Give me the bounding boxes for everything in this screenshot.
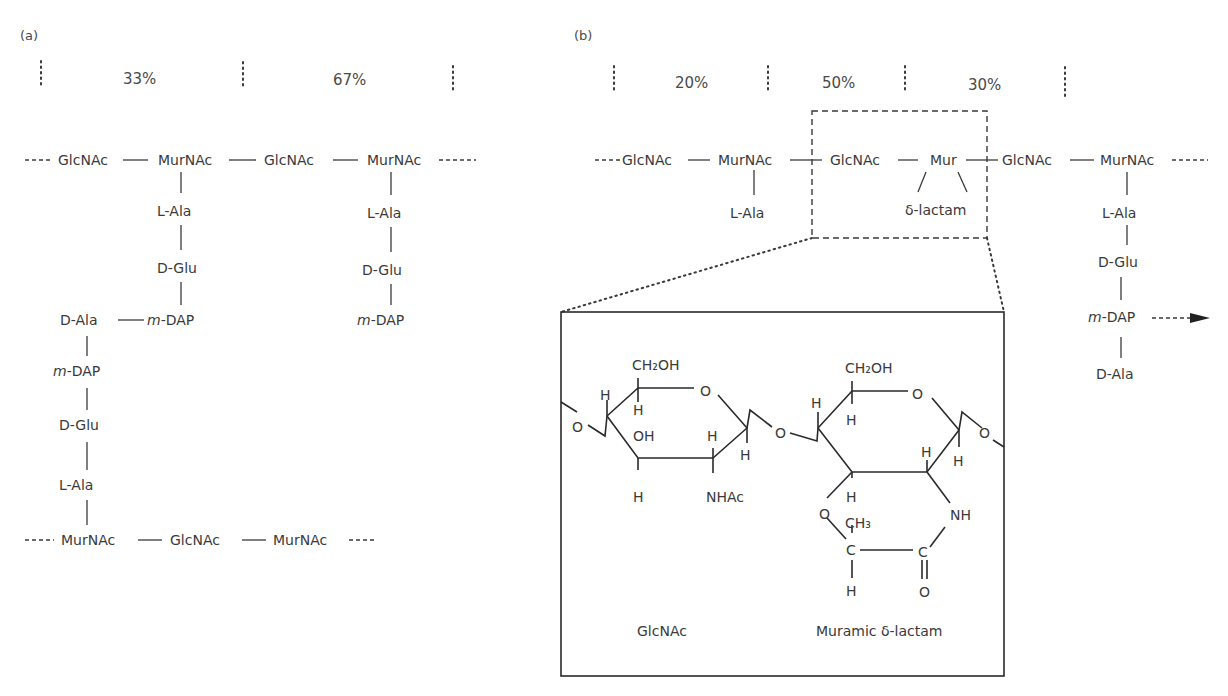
ring-oxygen-label: O [912, 386, 923, 402]
muramic-lactam-structure: CH₂OH O H H H H H O CH₃ C C NH H O Muram… [790, 360, 1004, 639]
d-ala-label: D-Ala [60, 312, 98, 328]
m-dap-label: m-DAP [1088, 309, 1135, 325]
carbon-label: C [918, 544, 928, 560]
hydrogen-label: H [740, 447, 751, 463]
l-ala-label: L-Ala [59, 477, 93, 493]
glcnac-label: GlcNAc [830, 152, 880, 168]
panel-b-label: (b) [574, 28, 592, 43]
l-ala-label: L-Ala [367, 205, 401, 221]
carbonyl-oxygen-label: O [919, 584, 930, 600]
glycosidic-oxygen-label: O [572, 419, 583, 435]
murnac-label: MurNAc [1100, 152, 1154, 168]
glcnac-label: GlcNAc [170, 532, 220, 548]
d-glu-label: D-Glu [157, 260, 197, 276]
hydrogen-label: H [633, 489, 644, 505]
percentage-label: 30% [968, 76, 1001, 94]
highlight-box [812, 111, 987, 238]
murnac-label: MurNAc [273, 532, 327, 548]
glcnac-label: GlcNAc [58, 152, 108, 168]
glycosidic-oxygen-label: O [775, 425, 786, 441]
m-dap-label: m-DAP [147, 312, 194, 328]
zoom-connector [987, 238, 1004, 312]
ch3-label: CH₃ [845, 515, 871, 531]
ch2oh-label: CH₂OH [845, 360, 892, 376]
percentage-label: 33% [123, 70, 156, 88]
d-glu-label: D-Glu [1098, 254, 1138, 270]
hydrogen-label: H [707, 428, 718, 444]
murnac-label: MurNAc [61, 532, 115, 548]
hydrogen-label: H [811, 395, 822, 411]
murnac-label: MurNAc [718, 152, 772, 168]
glcnac-label: GlcNAc [1002, 152, 1052, 168]
murnac-label: MurNAc [158, 152, 212, 168]
carbon-label: C [846, 542, 856, 558]
ring-oxygen-label: O [700, 383, 711, 399]
l-ala-label: L-Ala [730, 205, 764, 221]
percentage-label: 20% [675, 74, 708, 92]
glcnac-label: GlcNAc [622, 152, 672, 168]
zoom-connector [561, 238, 812, 312]
d-glu-label: D-Glu [362, 262, 402, 278]
hydroxyl-label: OH [633, 428, 655, 444]
d-ala-label: D-Ala [1096, 366, 1134, 382]
hydrogen-label: H [846, 583, 857, 599]
panel-a: (a) 33% 67% GlcNAc MurNAc GlcNAc MurNAc … [20, 28, 476, 548]
hydrogen-label: H [921, 444, 932, 460]
ring-oxygen-label: O [819, 506, 830, 522]
murnac-label: MurNAc [367, 152, 421, 168]
nh-label: NH [950, 507, 971, 523]
hydrogen-label: H [633, 402, 644, 418]
glcnac-label: GlcNAc [264, 152, 314, 168]
ch2oh-label: CH₂OH [632, 357, 679, 373]
l-ala-label: L-Ala [157, 203, 191, 219]
panel-a-label: (a) [20, 28, 38, 43]
hydrogen-label: H [846, 489, 857, 505]
l-ala-label: L-Ala [1102, 205, 1136, 221]
inset-box [561, 312, 1004, 676]
glcnac-structure: CH₂OH O H H OH H H H NHAc GlcNAc [561, 357, 772, 639]
m-dap-label: m-DAP [357, 312, 404, 328]
percentage-label: 67% [333, 71, 366, 89]
peptidoglycan-figure: (a) 33% 67% GlcNAc MurNAc GlcNAc MurNAc … [0, 0, 1228, 696]
mur-label: Mur [930, 152, 957, 168]
d-glu-label: D-Glu [59, 417, 99, 433]
hydrogen-label: H [953, 453, 964, 469]
hydrogen-label: H [600, 387, 611, 403]
m-dap-label: m-DAP [53, 363, 100, 379]
panel-b: (b) 20% 50% 30% GlcNAc MurNAc GlcNAc Mur… [561, 28, 1210, 676]
muramic-lactam-caption: Muramic δ-lactam [816, 623, 942, 639]
delta-lactam-label: δ-lactam [905, 202, 967, 218]
percentage-label: 50% [822, 74, 855, 92]
arrow-icon [1190, 313, 1210, 323]
hydrogen-label: H [846, 412, 857, 428]
glcnac-caption: GlcNAc [637, 623, 687, 639]
nhac-label: NHAc [706, 489, 744, 505]
